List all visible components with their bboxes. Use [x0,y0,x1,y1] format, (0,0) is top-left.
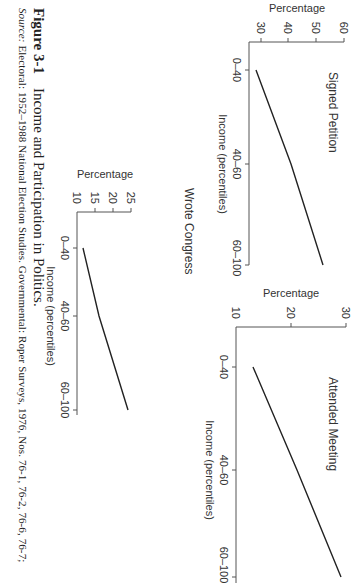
svg-text:0–40: 0–40 [218,355,230,379]
x-axis-label: Income (percentiles) [204,420,216,520]
svg-text:40: 40 [282,22,294,34]
svg-text:0–40: 0–40 [59,236,71,260]
x-ticks: 0–40 40–60 60–100 [218,355,236,584]
source-text: Electoral: 1952–1988 National Election S… [17,45,29,562]
figure-source: Source: Electoral: 1952–1988 National El… [17,8,29,588]
svg-text:10: 10 [230,307,242,319]
figure-caption: Figure 3-1Income and Participation in Po… [17,8,47,588]
svg-text:60–100: 60–100 [218,547,230,584]
svg-text:60: 60 [338,22,350,34]
svg-text:40–60: 40–60 [59,301,71,332]
figure-title-line: Figure 3-1Income and Participation in Po… [30,8,47,588]
y-axis-label: Percentage [263,287,319,299]
svg-text:15: 15 [89,192,101,204]
svg-text:40–60: 40–60 [231,149,243,180]
y-axis-label: Percentage [77,168,133,180]
figure-number: Figure 3-1 [31,8,47,74]
figure-page: Signed Petition 60 50 40 30 Percentage 0… [0,0,363,588]
svg-text:20: 20 [107,192,119,204]
svg-text:50: 50 [310,22,322,34]
svg-text:60–100: 60–100 [59,382,71,419]
y-ticks: 60 50 40 30 [255,22,350,42]
y-axis-label: Percentage [269,2,325,14]
svg-text:30: 30 [340,307,352,319]
data-line [256,70,323,265]
x-ticks: 0–40 40–60 60–100 [231,58,249,277]
figure-title: Income and Participation in Politics. [31,88,47,307]
svg-text:25: 25 [125,192,137,204]
y-ticks: 25 20 15 10 [71,192,137,212]
data-line [83,248,128,410]
svg-text:60–100: 60–100 [231,240,243,277]
x-axis-label: Income (percentiles) [217,114,229,214]
svg-text:0–40: 0–40 [231,58,243,82]
x-ticks: 0–40 40–60 60–100 [59,236,77,419]
panel-title: Attended Meeting [326,377,340,471]
chart-wrote-congress: Wrote Congress 25 20 15 10 Percentage 0–… [43,160,213,420]
svg-text:10: 10 [71,192,83,204]
svg-text:40–60: 40–60 [218,455,230,486]
panel-title: Wrote Congress [182,188,196,274]
svg-text:30: 30 [255,22,267,34]
y-ticks: 30 20 10 [230,307,352,327]
svg-text:20: 20 [285,307,297,319]
source-label: Source: [17,8,29,43]
panel-title: Signed Petition [326,72,340,153]
